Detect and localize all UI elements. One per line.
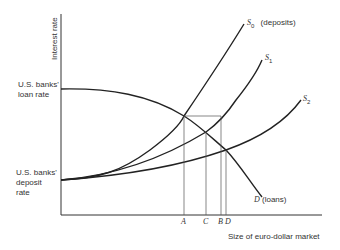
supply-curve-s0 <box>61 24 244 180</box>
s0-subscript: 0 <box>251 23 254 29</box>
d-note: (loans) <box>262 195 286 204</box>
supply-curve-s2 <box>61 100 301 180</box>
s2-subscript: 2 <box>307 99 310 105</box>
x-axis-label: Size of euro-dollar market <box>228 232 320 242</box>
tick-b: B <box>218 217 223 227</box>
deposit-rate-line1: U.S. banks' <box>16 168 57 178</box>
s0-label: S0 (deposits) <box>247 18 296 31</box>
deposit-rate-line3: rate <box>16 188 57 198</box>
loan-rate-label: U.S. banks' loan rate <box>18 80 59 100</box>
deposit-rate-line2: deposit <box>16 178 57 188</box>
s1-label: S1 <box>265 53 272 66</box>
deposit-rate-label: U.S. banks' deposit rate <box>16 168 57 198</box>
loan-rate-line2: loan rate <box>18 90 59 100</box>
tick-c: C <box>203 217 208 227</box>
supply-curve-s1 <box>61 60 262 180</box>
s2-label: S2 <box>303 94 310 107</box>
s1-subscript: 1 <box>269 58 272 64</box>
d-symbol: D <box>254 195 260 204</box>
tick-a: A <box>181 217 186 227</box>
d-label: D (loans) <box>254 195 286 205</box>
y-axis-label: Interest rate <box>50 17 60 60</box>
s0-note: (deposits) <box>261 18 296 27</box>
tick-d: D <box>225 217 231 227</box>
loan-rate-line1: U.S. banks' <box>18 80 59 90</box>
